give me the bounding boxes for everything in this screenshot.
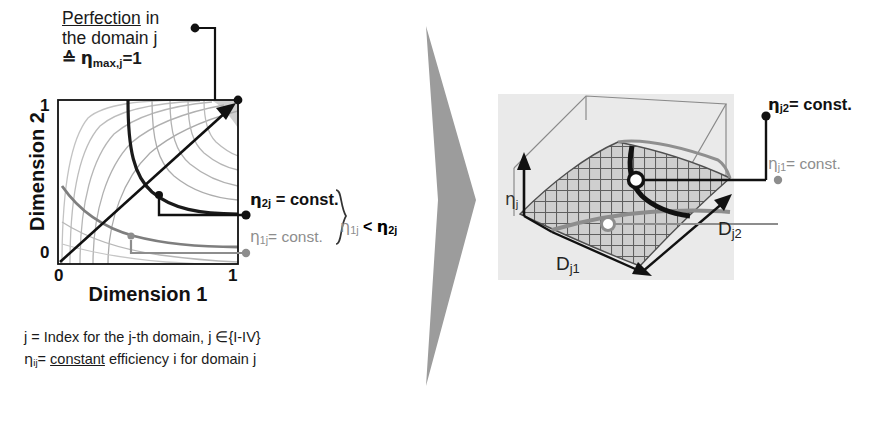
etaj-symbol: η [505,189,516,209]
etaj1-symbol: η [768,155,778,173]
eta-ij-symbol: η [24,351,33,367]
dj2-subscript: j2 [732,226,742,241]
etaj-subscript: j [516,198,519,210]
surface-marker-etaj1 [602,218,615,231]
eta2j-subscript: 2j [262,197,271,209]
perfection-corner-dot [234,96,243,105]
inequality-right-symbol: η [377,217,388,236]
inequality-right-subscript: 2j [388,224,397,236]
figure-legend: j = Index for the j-th domain, j ∈{I-IV}… [24,326,261,371]
eta1j-equals: = const. [268,228,323,245]
etaj1-subscript: j1 [778,161,786,173]
surface-marker-etaj2 [629,173,644,188]
etaj2-equals: = const. [789,95,852,113]
inequality-left-symbol: η [340,217,350,236]
x-axis-label: Dimension 1 [55,283,241,306]
gray-arrow-shape [426,26,476,386]
label-axis-etaj: ηj [505,190,518,210]
eta2j-equals: = const. [271,190,338,208]
inequality-eta1j-lt-eta2j: η1j < η2j [340,218,397,236]
inequality-operator: < [359,218,377,235]
figure-root: Perfection in the domain j ≙ ηmax,j=1 [0,0,896,422]
dj1-subscript: j1 [570,261,580,276]
y-axis-label: Dimension 2 [26,97,49,247]
label-etaj2-const: ηj2= const. [768,95,852,115]
legend-underlined-word: constant [50,351,105,367]
label-axis-dj1: Dj1 [556,253,580,275]
perfection-leader-line [191,24,215,100]
eta1j-symbol: η [250,228,260,246]
legend-line-2: ηij= constant efficiency i for domain j [24,348,261,370]
eta1j-subscript: 1j [260,234,268,246]
label-axis-dj2: Dj2 [718,218,742,240]
inequality-left-subscript: 1j [350,224,358,236]
legend-equals: = [38,351,51,367]
legend-line-1: j = Index for the j-th domain, j ∈{I-IV} [24,329,261,345]
label-eta1j-const: η1j= const. [250,228,323,247]
etaj1-equals: = const. [786,155,841,172]
eta2j-symbol: η [250,190,262,209]
etaj2-subscript: j2 [780,102,789,114]
left-contour-chart [0,0,420,300]
label-eta2j-const: η2j = const. [250,190,339,210]
dj2-symbol: D [718,218,732,239]
dj1-symbol: D [556,253,570,274]
legend-line2-rest: efficiency i for domain j [105,351,256,367]
label-etaj1-const: ηj1= const. [768,155,841,174]
etaj2-symbol: η [768,95,780,114]
